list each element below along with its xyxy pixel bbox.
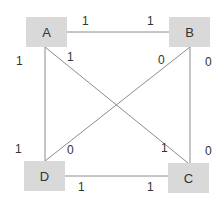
edge-label-ab-right: 1: [147, 15, 154, 27]
node-c: C: [168, 163, 209, 193]
node-a: A: [26, 17, 67, 47]
node-b: B: [169, 17, 210, 47]
edge-label-dc-right: 1: [147, 181, 154, 193]
edge-label-ad-top: 1: [16, 55, 23, 67]
edge-label-ad-bottom: 1: [15, 143, 22, 155]
edge-label-bc-top: 0: [205, 56, 212, 68]
edge-label-dc-left: 1: [78, 181, 85, 193]
edge-label-bc-bottom: 0: [205, 145, 212, 157]
edge-label-ac-bottom: 1: [161, 142, 168, 154]
edge-label-ac-top: 1: [67, 51, 74, 63]
edge-label-bd-top: 0: [158, 54, 165, 66]
edge-label-bd-bottom: 0: [67, 144, 74, 156]
node-d: D: [24, 161, 65, 191]
edge-label-ab-left: 1: [82, 15, 89, 27]
